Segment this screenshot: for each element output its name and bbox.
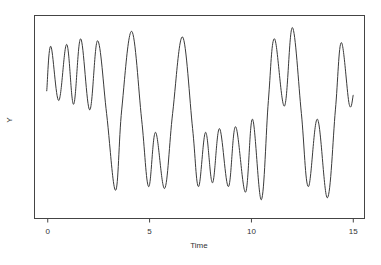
x-tick-label-15: 15	[349, 227, 358, 236]
x-tick-label-0: 0	[46, 227, 51, 236]
x-axis-ticks	[48, 219, 354, 223]
plot-frame	[35, 16, 365, 219]
time-series-chart: 0 5 10 15 Time Y	[0, 0, 381, 265]
y-axis-label: Y	[5, 117, 14, 123]
x-axis-label: Time	[190, 241, 208, 250]
x-tick-label-5: 5	[147, 227, 152, 236]
x-tick-label-10: 10	[247, 227, 256, 236]
data-line	[47, 28, 354, 200]
